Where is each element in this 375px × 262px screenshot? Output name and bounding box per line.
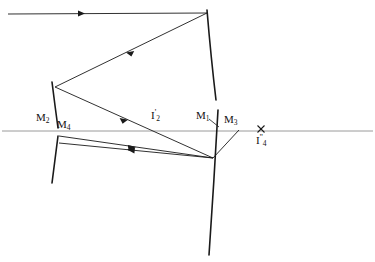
label-mirror-m1: M1 — [196, 110, 210, 123]
label-image-i4: I''4 — [256, 133, 267, 147]
label-i2-sub: 2 — [156, 114, 160, 123]
label-m3-base: M — [224, 113, 234, 125]
ray-lower-mirror-to-m4 — [59, 143, 213, 158]
label-m2-sub: 2 — [46, 116, 50, 125]
label-m1-sub: 1 — [206, 114, 210, 123]
label-image-i2: I'2 — [151, 108, 160, 122]
label-mirror-m2: M2 — [36, 112, 50, 125]
mirror-m4-lower-arc — [52, 136, 58, 183]
mirror-m3-lower-arc — [209, 110, 218, 255]
label-m3-sub: 3 — [234, 118, 238, 127]
label-m1-base: M — [196, 109, 206, 121]
label-i4-sub: 4 — [263, 139, 267, 148]
label-mirror-m4: M4 — [57, 119, 71, 132]
label-m4-sub: 4 — [67, 123, 71, 132]
label-m4-base: M — [57, 118, 67, 130]
label-m2-base: M — [36, 111, 46, 123]
label-mirror-m3: M3 — [224, 114, 238, 127]
incoming-ray-top — [8, 13, 207, 14]
ray-m1-to-m2 — [55, 13, 207, 87]
optical-ray-diagram: M2 M4 I'2 M1 M3 I''4 — [0, 0, 375, 262]
arrowhead-incoming-ray-top — [78, 11, 85, 17]
mirror-m1-upper-arc — [207, 10, 216, 100]
